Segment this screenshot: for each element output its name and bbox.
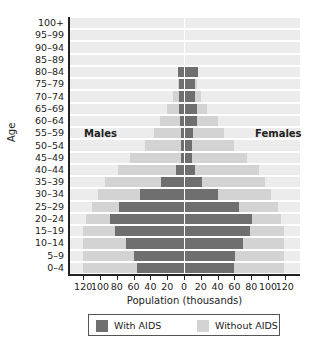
x-tick — [285, 275, 286, 280]
x-tick — [268, 275, 269, 280]
bar-females-without-aids — [184, 165, 259, 175]
population-pyramid-chart: Age 0–45–910–1415–1920–2425–2930–3435–39… — [0, 0, 325, 346]
y-tick-label: 85–89 — [0, 54, 64, 66]
bar-females-with-aids — [184, 116, 197, 126]
bar-males-without-aids — [145, 140, 184, 150]
y-tick-label: 100+ — [0, 17, 64, 29]
bar-males-with-aids — [110, 214, 184, 224]
bar-males-without-aids — [154, 128, 184, 138]
bar-females-without-aids — [184, 153, 247, 163]
bar-males-with-aids — [140, 189, 184, 199]
x-tick — [201, 275, 202, 280]
y-tick-label: 30–34 — [0, 188, 64, 200]
bar-females-with-aids — [184, 263, 234, 273]
bar-males-with-aids — [119, 202, 184, 212]
y-tick-label: 95–99 — [0, 29, 64, 41]
legend-swatch-with-aids — [96, 320, 108, 332]
bar-males-with-aids — [115, 226, 184, 236]
y-tick-label: 50–54 — [0, 140, 64, 152]
y-tick-label: 80–84 — [0, 66, 64, 78]
bar-females-with-aids — [184, 177, 202, 187]
y-tick-label: 55–59 — [0, 127, 64, 139]
x-tick — [184, 275, 185, 280]
bar-males-with-aids — [134, 251, 184, 261]
y-axis-line — [68, 17, 70, 275]
bar-males-with-aids — [176, 165, 184, 175]
y-tick-label: 70–74 — [0, 91, 64, 103]
legend-label-without-aids: Without AIDS — [215, 320, 278, 331]
bar-females-with-aids — [184, 226, 250, 236]
y-tick-label: 75–79 — [0, 78, 64, 90]
bar-females-with-aids — [184, 202, 239, 212]
x-tick — [83, 275, 84, 280]
y-tick-label: 65–69 — [0, 103, 64, 115]
y-tick-label: 10–14 — [0, 237, 64, 249]
bar-females-with-aids — [184, 153, 192, 163]
x-tick — [117, 275, 118, 280]
y-tick-label: 20–24 — [0, 213, 64, 225]
x-tick — [134, 275, 135, 280]
bar-females-with-aids — [184, 104, 197, 114]
y-tick-label: 60–64 — [0, 115, 64, 127]
y-tick-label: 0–4 — [0, 262, 64, 274]
x-tick — [234, 275, 235, 280]
x-tick — [251, 275, 252, 280]
x-tick — [150, 275, 151, 280]
legend-item-with-aids: With AIDS — [96, 319, 161, 332]
bar-females-with-aids — [184, 165, 195, 175]
bar-females-with-aids — [184, 214, 252, 224]
y-tick-label: 90–94 — [0, 42, 64, 54]
y-tick-label: 25–29 — [0, 201, 64, 213]
y-tick-label: 5–9 — [0, 250, 64, 262]
bar-females-with-aids — [184, 79, 195, 89]
bar-males-with-aids — [137, 263, 184, 273]
y-tick-label: 40–44 — [0, 164, 64, 176]
y-tick-label: 15–19 — [0, 225, 64, 237]
bar-males-without-aids — [130, 153, 184, 163]
center-line — [184, 17, 185, 274]
y-tick-label: 35–39 — [0, 176, 64, 188]
bar-females-with-aids — [184, 238, 243, 248]
bar-females-with-aids — [184, 91, 195, 101]
bar-females-with-aids — [184, 251, 235, 261]
legend: With AIDS Without AIDS — [88, 314, 280, 336]
x-tick — [100, 275, 101, 280]
bar-females-with-aids — [184, 189, 218, 199]
y-tick-label: 45–49 — [0, 152, 64, 164]
bar-males-with-aids — [161, 177, 184, 187]
bar-females-with-aids — [184, 67, 198, 77]
x-tick — [218, 275, 219, 280]
x-tick — [167, 275, 168, 280]
x-axis-title: Population (thousands) — [69, 295, 300, 306]
legend-label-with-aids: With AIDS — [114, 320, 161, 331]
bar-females-with-aids — [184, 140, 192, 150]
bar-males-without-aids — [118, 165, 184, 175]
females-label: Females — [255, 128, 302, 139]
bar-males-with-aids — [126, 238, 184, 248]
bar-females-with-aids — [184, 128, 193, 138]
x-tick-label: 120 — [273, 281, 297, 292]
legend-swatch-without-aids — [197, 320, 209, 332]
plot-area — [69, 17, 300, 274]
males-label: Males — [84, 128, 117, 139]
legend-item-without-aids: Without AIDS — [197, 319, 278, 332]
